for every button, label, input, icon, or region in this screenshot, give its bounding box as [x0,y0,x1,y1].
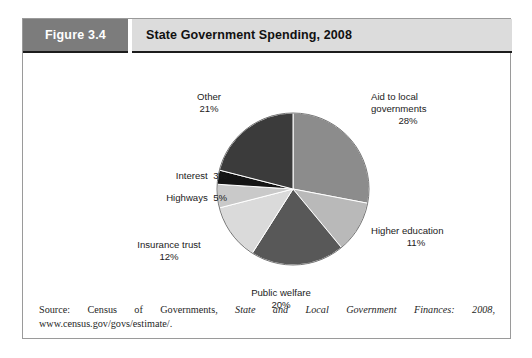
pie-label-higher-education-line1: Higher education [371,225,461,237]
pie-label-interest: Interest 3% [87,170,227,182]
pie-value-aid-to-local-governments: 28% [371,115,445,127]
pie-label-higher-education: Higher education 11% [371,225,461,249]
pie-value-highways: 5% [213,192,227,203]
pie-slice-aid-to-local-governments [293,113,369,203]
figure-title-box: State Government Spending, 2008 [132,19,512,53]
pie-label-aid-to-local-governments-line1: Aid to local [371,91,445,103]
source-note: Source: Census of Governments, State and… [39,303,495,331]
pie-label-aid-to-local-governments-line2: governments [371,103,445,115]
pie-label-other: Other 21% [173,91,245,115]
pie-value-other: 21% [173,103,245,115]
pie-value-higher-education: 11% [371,237,461,249]
source-note-title: State and Local Government Finances: 200… [235,304,492,315]
pie-label-highways-line1: Highways [166,192,208,203]
source-note-prefix: Source: Census of Governments, [39,304,235,315]
page-title: State Government Spending, 2008 [146,28,352,42]
pie-label-other-line1: Other [173,91,245,103]
figure-container: Figure 3.4 State Government Spending, 20… [22,18,511,339]
pie-value-interest: 3% [213,170,227,181]
figure-number-label: Figure 3.4 [45,28,106,42]
pie-label-aid-to-local-governments: Aid to local governments 28% [371,91,445,128]
pie-slice-group [217,113,369,265]
pie-chart-area: Aid to local governments 28% Higher educ… [23,53,512,293]
pie-value-insurance-trust: 12% [111,251,227,263]
pie-label-insurance-trust: Insurance trust 12% [111,239,227,263]
pie-label-highways: Highways 5% [87,192,227,204]
figure-number-box: Figure 3.4 [23,19,128,53]
pie-label-insurance-trust-line1: Insurance trust [111,239,227,251]
figure-header: Figure 3.4 State Government Spending, 20… [23,19,512,53]
pie-label-interest-line1: Interest [176,170,208,181]
pie-label-public-welfare-line1: Public welfare [219,287,343,299]
